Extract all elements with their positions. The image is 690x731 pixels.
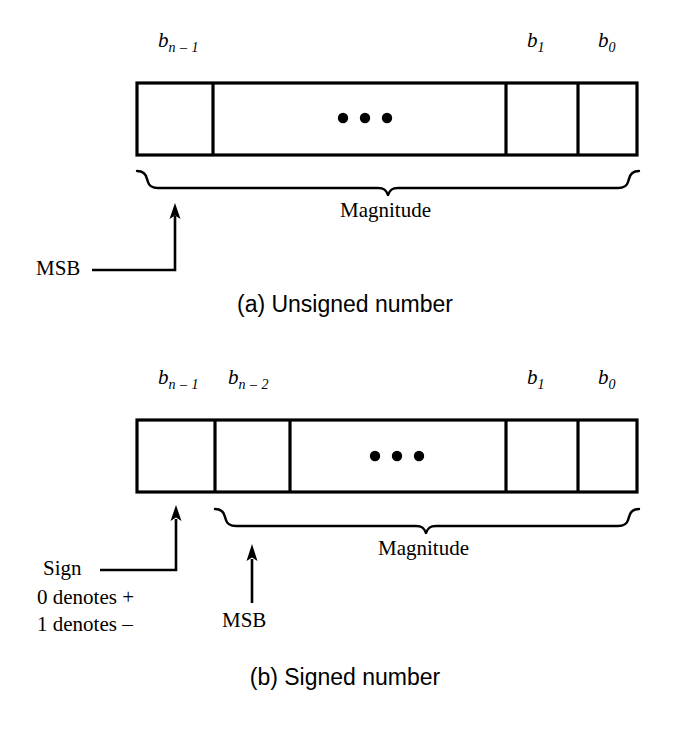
signed-sign-pointer xyxy=(100,505,182,570)
signed-sign-note-negative: 1 denotes – xyxy=(37,612,133,637)
signed-bit-label-b1: b1 xyxy=(527,365,545,393)
signed-bit-box xyxy=(137,420,637,492)
unsigned-bit-label-msb: bn – 1 xyxy=(158,28,199,56)
signed-magnitude-label: Magnitude xyxy=(378,536,469,561)
unsigned-msb-label: MSB xyxy=(36,256,80,281)
unsigned-magnitude-brace xyxy=(137,171,639,195)
signed-msb-label: MSB xyxy=(222,608,266,633)
signed-bit-label-sign: bn – 1 xyxy=(158,365,199,393)
figure-container: bn – 1 b1 b0 Magnitude MSB (a) Unsigned … xyxy=(0,0,690,731)
unsigned-caption: (a) Unsigned number xyxy=(0,291,690,318)
signed-bit-label-b0: b0 xyxy=(598,365,616,393)
signed-bit-label-msb: bn – 2 xyxy=(228,365,269,393)
unsigned-magnitude-label: Magnitude xyxy=(340,198,431,223)
signed-magnitude-brace xyxy=(215,509,639,533)
unsigned-msb-pointer xyxy=(92,203,181,270)
signed-sign-note-positive: 0 denotes + xyxy=(37,585,134,610)
signed-msb-pointer xyxy=(247,544,258,603)
signed-caption: (b) Signed number xyxy=(0,664,690,691)
unsigned-bit-label-b1: b1 xyxy=(527,28,545,56)
unsigned-ellipsis-dots xyxy=(338,113,392,123)
signed-sign-label: Sign xyxy=(43,556,82,581)
unsigned-bit-label-b0: b0 xyxy=(598,28,616,56)
signed-ellipsis-dots xyxy=(370,451,424,461)
